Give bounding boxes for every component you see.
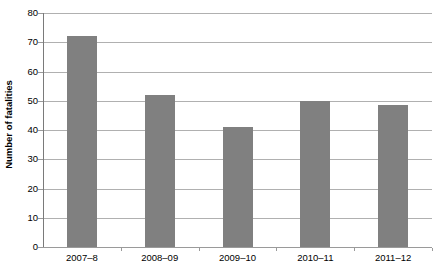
x-axis-tick-label: 2011–12 [375, 252, 411, 263]
x-axis-tick-mark [432, 248, 433, 251]
y-axis-tick-label: 60 [16, 67, 38, 77]
y-axis-title-text: Number of fatalities [3, 80, 14, 169]
x-axis-tick-mark [199, 248, 200, 251]
bar-chart: Number of fatalities 01020304050607080 2… [0, 0, 444, 278]
y-axis-tick-label: 40 [16, 125, 38, 135]
bars-layer [43, 13, 432, 247]
x-axis-tick-labels: 2007–82008–092009–102010–112011–12 [43, 252, 432, 274]
bar [67, 36, 97, 247]
x-axis-tick-label: 2008–09 [141, 252, 178, 263]
x-axis-tick-label: 2010–11 [297, 252, 333, 263]
x-axis-tick-mark [276, 248, 277, 251]
y-axis-tick-label: 70 [16, 37, 38, 47]
x-axis-tick-label: 2009–10 [219, 252, 256, 263]
y-axis-tick-label: 0 [16, 242, 38, 252]
bar [300, 101, 330, 247]
bar [145, 95, 175, 247]
x-axis-tick-mark [354, 248, 355, 251]
y-axis-tick-label: 80 [16, 8, 38, 18]
y-axis-tick-label: 10 [16, 213, 38, 223]
bar [378, 105, 408, 247]
bar [223, 127, 253, 247]
y-axis-tick-labels: 01020304050607080 [16, 0, 38, 248]
y-axis-tick-label: 20 [16, 184, 38, 194]
x-axis-tick-mark [121, 248, 122, 251]
y-axis-tick-label: 50 [16, 96, 38, 106]
y-axis-tick-label: 30 [16, 154, 38, 164]
x-axis-tick-label: 2007–8 [66, 252, 98, 263]
y-axis-title: Number of fatalities [0, 0, 16, 248]
